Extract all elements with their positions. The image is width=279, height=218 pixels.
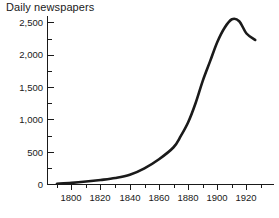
y-tick-label: 1,000 <box>19 114 43 125</box>
x-tick-label: 1840 <box>119 192 140 203</box>
x-tick-label: 1820 <box>89 192 110 203</box>
y-tick-label: 500 <box>27 147 43 158</box>
y-tick-label: 0 <box>38 179 43 190</box>
x-tick-label: 1880 <box>177 192 198 203</box>
x-tick-label: 1920 <box>235 192 256 203</box>
x-axis-ticks <box>58 185 262 191</box>
data-series-line <box>57 19 255 184</box>
line-chart-plot: 2,500 2,000 1,500 1,000 500 0 1800 1820 … <box>0 0 279 218</box>
x-axis-tick-labels: 1800 1820 1840 1860 1880 1900 1920 <box>60 192 256 203</box>
y-tick-label: 1,500 <box>19 82 43 93</box>
y-axis-tick-labels: 2,500 2,000 1,500 1,000 500 0 <box>19 17 43 190</box>
y-tick-label: 2,000 <box>19 49 43 60</box>
y-axis-ticks <box>48 23 55 169</box>
x-tick-label: 1860 <box>148 192 169 203</box>
chart-container: Daily newspapers 2,500 2,000 1,500 1,000… <box>0 0 279 218</box>
x-tick-label: 1900 <box>206 192 227 203</box>
x-tick-label: 1800 <box>60 192 81 203</box>
y-tick-label: 2,500 <box>19 17 43 28</box>
